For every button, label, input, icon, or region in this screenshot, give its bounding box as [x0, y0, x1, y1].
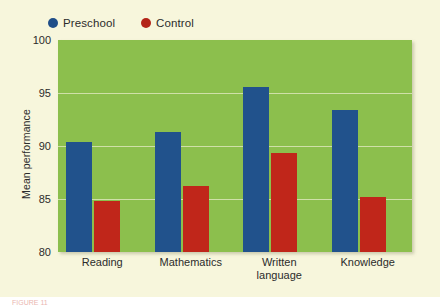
- bar-preschool: [243, 87, 269, 252]
- legend-item-control: Control: [141, 17, 194, 29]
- legend-swatch-control-icon: [141, 18, 151, 28]
- caption-sliver: FIGURE 11: [12, 299, 48, 307]
- bar-group: [58, 40, 147, 252]
- bar-preschool: [66, 142, 92, 252]
- legend-swatch-preschool-icon: [48, 18, 58, 28]
- y-axis-ticks: 80859095100: [0, 40, 56, 252]
- x-tick-label: Mathematics: [147, 256, 236, 269]
- bar-control: [183, 186, 209, 252]
- x-tick-label: Reading: [58, 256, 147, 269]
- y-tick-label: 90: [39, 140, 51, 152]
- bar-group: [147, 40, 236, 252]
- plot-area: [58, 40, 412, 252]
- bar-group: [324, 40, 413, 252]
- y-tick-label: 85: [39, 193, 51, 205]
- bar-preschool: [332, 110, 358, 252]
- bar-control: [271, 153, 297, 252]
- y-tick-label: 100: [33, 34, 51, 46]
- y-tick-label: 80: [39, 246, 51, 258]
- bar-preschool: [155, 132, 181, 252]
- legend-label-preschool: Preschool: [63, 17, 115, 29]
- legend-item-preschool: Preschool: [48, 17, 115, 29]
- bar-group: [235, 40, 324, 252]
- x-tick-label: Knowledge: [324, 256, 413, 269]
- legend-label-control: Control: [156, 17, 194, 29]
- figure-panel: Preschool Control Mean performance 80859…: [0, 0, 440, 297]
- x-tick-label: Written language: [235, 256, 324, 282]
- x-axis-labels: ReadingMathematicsWritten languageKnowle…: [58, 256, 412, 290]
- bar-control: [94, 201, 120, 252]
- bar-control: [360, 197, 386, 252]
- y-tick-label: 95: [39, 87, 51, 99]
- chart-legend: Preschool Control: [48, 13, 194, 33]
